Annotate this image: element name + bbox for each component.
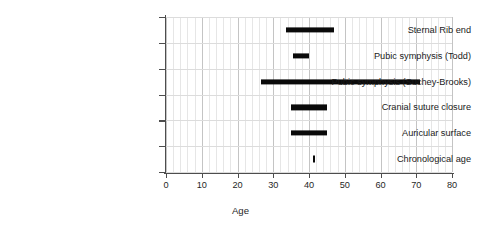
x-axis-tick xyxy=(238,173,239,178)
category-gridline xyxy=(166,43,452,44)
y-axis-tick xyxy=(159,43,165,44)
x-tick-label: 70 xyxy=(411,180,421,190)
plot-area xyxy=(166,17,452,172)
x-tick-label: 40 xyxy=(304,180,314,190)
category-gridline xyxy=(166,95,452,96)
x-axis-tick xyxy=(273,173,274,178)
major-gridline xyxy=(452,17,453,172)
x-axis-tick xyxy=(452,173,453,178)
x-tick-label: 20 xyxy=(232,180,242,190)
x-axis-tick xyxy=(345,173,346,178)
x-tick-label: 0 xyxy=(163,180,168,190)
range-bar xyxy=(286,27,334,32)
x-axis-tick xyxy=(309,173,310,178)
x-axis-tick xyxy=(381,173,382,178)
category-label: Cranial suture closure xyxy=(382,102,471,112)
range-bar xyxy=(313,156,316,163)
x-tick-label: 60 xyxy=(375,180,385,190)
x-axis-tick xyxy=(202,173,203,178)
category-gridline xyxy=(166,120,452,121)
range-bar xyxy=(291,105,327,110)
category-label: Pubic symphysis (Suchey-Brooks) xyxy=(332,77,471,87)
category-gridline xyxy=(166,146,452,147)
x-axis-title: Age xyxy=(0,205,481,216)
range-bar xyxy=(291,131,327,136)
x-tick-label: 50 xyxy=(340,180,350,190)
category-label: Sternal Rib end xyxy=(408,25,471,35)
x-axis-tick xyxy=(416,173,417,178)
y-axis-tick xyxy=(159,17,165,18)
category-label: Auricular surface xyxy=(402,128,471,138)
x-axis-tick xyxy=(166,173,167,178)
y-axis-tick xyxy=(159,172,165,173)
category-label: Pubic symphysis (Todd) xyxy=(374,51,471,61)
y-axis-tick xyxy=(159,95,165,96)
y-axis-tick xyxy=(159,146,165,147)
age-estimation-range-chart: Sternal Rib endPubic symphysis (Todd)Pub… xyxy=(0,0,481,234)
category-gridline xyxy=(166,17,452,18)
range-bar xyxy=(293,53,309,58)
y-axis-tick xyxy=(159,120,165,121)
x-tick-label: 10 xyxy=(197,180,207,190)
category-gridline xyxy=(166,69,452,70)
x-tick-label: 30 xyxy=(268,180,278,190)
y-axis-tick xyxy=(159,69,165,70)
x-tick-label: 80 xyxy=(447,180,457,190)
category-label: Chronological age xyxy=(397,154,471,164)
y-axis-line xyxy=(165,15,166,174)
